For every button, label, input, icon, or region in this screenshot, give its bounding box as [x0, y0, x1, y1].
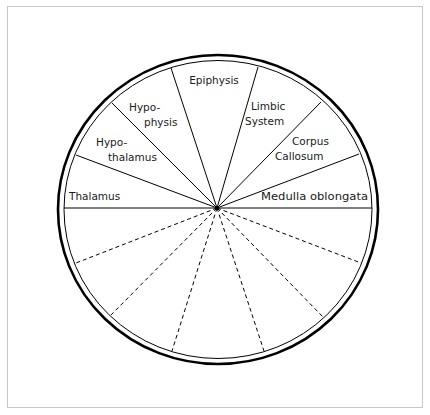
- center-point: [215, 206, 219, 210]
- label-hypophysis-line1: Hypo-: [129, 101, 160, 113]
- brain-sector-wheel: Epiphysis Hypo- physis Hypo- thalamus Li…: [0, 0, 430, 415]
- label-hypothalamus-line2: thalamus: [108, 151, 157, 163]
- spoke-hypophysis-epiphysis: [171, 68, 217, 208]
- label-limbic-line1: Limbic: [251, 100, 286, 112]
- label-hypothalamus-line1: Hypo-: [96, 136, 127, 148]
- dashed-spoke-2: [111, 208, 217, 315]
- label-corpus-line2: Callosum: [275, 150, 323, 162]
- dashed-spoke-4: [217, 208, 264, 351]
- dashed-spoke-5: [217, 208, 323, 317]
- label-medulla: Medulla oblongata: [261, 190, 368, 202]
- dashed-spoke-6: [217, 208, 361, 263]
- label-limbic-line2: System: [245, 115, 284, 127]
- label-corpus-line1: Corpus: [292, 135, 329, 147]
- label-hypophysis-line2: physis: [144, 116, 177, 128]
- label-epiphysis: Epiphysis: [189, 74, 239, 86]
- dashed-spoke-1: [76, 208, 217, 263]
- dashed-spoke-3: [172, 208, 217, 351]
- label-thalamus: Thalamus: [68, 190, 120, 202]
